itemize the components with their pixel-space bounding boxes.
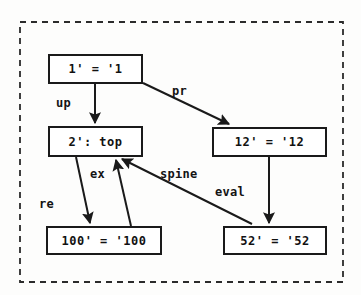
edge-label-eval: eval bbox=[215, 185, 245, 199]
figure-root: 1' = '1 2': top 12' = '12 100' = '100 52… bbox=[0, 0, 361, 295]
node-box-12[interactable]: 12' = '12 bbox=[212, 127, 327, 157]
node-box-1[interactable]: 1' = '1 bbox=[48, 54, 143, 84]
edge-label-spine: spine bbox=[160, 167, 198, 181]
edge-label-pr: pr bbox=[172, 84, 187, 98]
edge-label-up: up bbox=[56, 96, 71, 110]
edge-label-ex: ex bbox=[90, 167, 105, 181]
node-box-2-top[interactable]: 2': top bbox=[48, 126, 143, 157]
edge-re-line bbox=[76, 157, 90, 223]
edge-ex-line bbox=[116, 160, 131, 226]
node-box-100[interactable]: 100' = '100 bbox=[46, 226, 162, 255]
node-box-52[interactable]: 52' = '52 bbox=[223, 226, 327, 255]
edge-label-re: re bbox=[39, 197, 54, 211]
